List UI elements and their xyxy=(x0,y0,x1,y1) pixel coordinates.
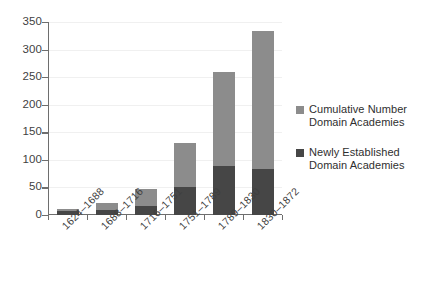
bars-layer xyxy=(48,22,282,215)
legend-label-newly-established: Newly Established Domain Academies xyxy=(309,146,405,172)
chart-container: 050100150200250300350 1624–16881688–1716… xyxy=(0,0,434,288)
legend-label-line2: Domain Academies xyxy=(309,116,405,128)
bar-segment-cumulative xyxy=(174,143,196,187)
legend-swatch-icon xyxy=(296,149,304,157)
bar-segment-cumulative xyxy=(252,31,274,169)
y-axis-tick-label: 250 xyxy=(2,71,42,83)
bar-segment-cumulative xyxy=(213,72,235,167)
y-axis-tick-label: 300 xyxy=(2,44,42,56)
legend-swatch-icon xyxy=(296,106,304,114)
y-axis-tick-label: 0 xyxy=(2,209,42,221)
x-axis-labels: 1624–16881688–17161716–17511751–17891789… xyxy=(48,215,298,288)
y-axis-tick-label: 350 xyxy=(2,16,42,28)
chart-legend: Cumulative Number Domain Academies Newly… xyxy=(296,103,430,189)
legend-label-line1: Cumulative Number xyxy=(309,103,407,115)
y-axis-tick-label: 50 xyxy=(2,181,42,193)
legend-label-cumulative: Cumulative Number Domain Academies xyxy=(309,103,407,129)
y-axis-tick-label: 150 xyxy=(2,126,42,138)
legend-item-newly-established: Newly Established Domain Academies xyxy=(296,146,430,172)
legend-label-line1: Newly Established xyxy=(309,146,400,158)
bar-group xyxy=(174,143,196,215)
plot-area xyxy=(48,22,282,215)
legend-label-line2: Domain Academies xyxy=(309,159,405,171)
y-axis-tick-label: 100 xyxy=(2,154,42,166)
legend-item-cumulative: Cumulative Number Domain Academies xyxy=(296,103,430,129)
y-axis-tick-label: 200 xyxy=(2,99,42,111)
